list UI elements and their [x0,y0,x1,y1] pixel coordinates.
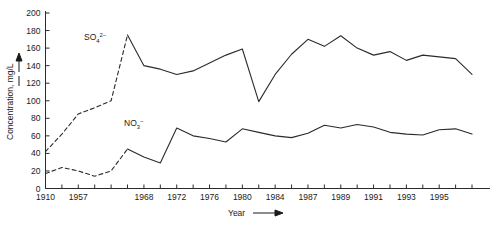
x-tick-label: 1957 [69,192,88,202]
y-axis-arrow-icon [16,53,22,86]
y-tick-label: 180 [26,26,40,36]
y-tick-label: 20 [31,166,41,176]
series-group [46,35,473,176]
x-tick-label: 1976 [200,192,219,202]
so4-label-sup: 2− [100,32,107,38]
x-axis-title: Year [228,208,245,218]
svg-text:SO42−: SO42− [84,32,107,44]
x-tick-label: 1984 [266,192,285,202]
x-tick-label: 1968 [134,192,153,202]
y-tick-label: 80 [31,113,41,123]
y-axis-title: Concentration, mg/L [5,63,15,140]
chart-container: Concentration, mg/L 02040608010012014016… [0,0,496,227]
y-axis-ticks: 020406080100120140160180200 [26,8,49,194]
series-annotation-no3: NO3− [124,118,144,130]
y-tick-label: 200 [26,8,40,18]
x-tick-label: 1995 [430,192,449,202]
x-tick-label: 1991 [364,192,383,202]
concentration-vs-year-line-chart: Concentration, mg/L 02040608010012014016… [0,0,496,227]
no3-label-sup: − [140,118,144,124]
x-tick-label: 1989 [331,192,350,202]
so4-series-dashed-segment [46,35,128,152]
no3-series-dashed-segment [46,149,128,176]
y-tick-label: 60 [31,131,41,141]
y-tick-label: 160 [26,43,40,53]
x-tick-label: 1980 [233,192,252,202]
y-tick-label: 140 [26,61,40,71]
x-axis-title-group: Year [228,208,283,218]
series-annotation-so4: SO42− [84,32,107,44]
x-tick-label: 1987 [299,192,318,202]
axis-lines [46,11,491,189]
y-tick-label: 100 [26,96,40,106]
so4-label-sub: 4 [96,38,100,44]
y-tick-label: 40 [31,148,41,158]
x-axis-ticks: 1910195719681972197619801984198719891991… [36,185,472,202]
x-tick-label: 1972 [167,192,186,202]
y-tick-label: 120 [26,78,40,88]
no3-label-main: NO [124,118,137,128]
no3-label-sub: 3 [137,124,140,130]
no3-series-solid-segment [128,124,472,163]
x-tick-label: 1910 [36,192,55,202]
svg-text:NO3−: NO3− [124,118,144,130]
x-tick-label: 1993 [397,192,416,202]
so4-label-main: SO [84,32,97,42]
x-axis-arrow-icon [253,210,283,216]
so4-series-solid-segment [128,35,472,102]
y-axis-title-group: Concentration, mg/L [5,53,22,140]
